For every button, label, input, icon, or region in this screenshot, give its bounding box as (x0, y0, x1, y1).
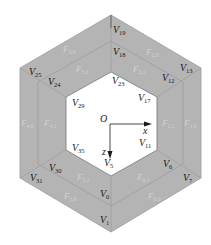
origin-label: O (100, 113, 107, 124)
x-axis-label: x (142, 125, 148, 136)
z-axis-label: z (101, 146, 106, 157)
hexagon-ring-diagram: F3,0 F3,1 F2,0 F2,1 F4,0 F4,1 F1,1 F1,0 … (0, 0, 211, 245)
